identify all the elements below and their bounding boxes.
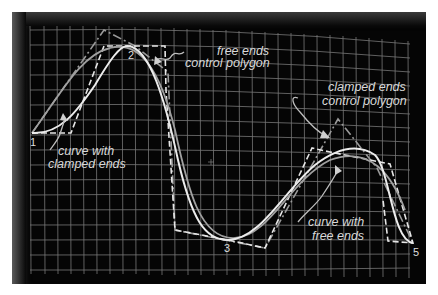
label-curve-free-1: curve with (308, 215, 364, 229)
label-curve-clamped-1: curve with (58, 144, 114, 158)
point-label-3: 3 (224, 242, 230, 254)
arrowhead-icon (60, 113, 68, 121)
point-label-2: 2 (128, 49, 134, 61)
point-label-1: 1 (30, 136, 36, 148)
arrowhead-icon (335, 165, 342, 175)
arrowhead-icon (320, 130, 330, 138)
spline-diagram: free ends control polygon clamped ends c… (0, 0, 438, 295)
label-clamped-ends-polygon: control polygon (322, 94, 407, 108)
label-curve-free-2: free ends (312, 229, 364, 243)
label-clamped-ends: clamped ends (328, 80, 406, 94)
center-plus-mark (208, 159, 214, 165)
arrow-free-polygon (156, 52, 184, 60)
label-curve-clamped-2: clamped ends (48, 157, 126, 171)
label-free-ends-polygon: control polygon (185, 56, 270, 70)
point-label-5: 5 (413, 246, 419, 258)
